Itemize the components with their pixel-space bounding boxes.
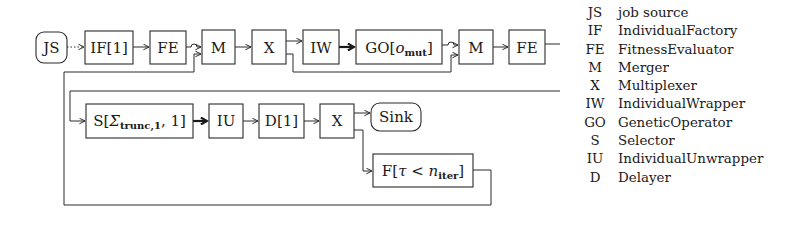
legend-abbr: S: [578, 132, 612, 150]
legend-desc: Multiplexer: [618, 77, 697, 95]
node-label: JS: [41, 39, 59, 57]
node-filter: F[τ < niter]: [373, 154, 473, 187]
legend-abbr: JS: [578, 4, 612, 22]
legend-desc: GeneticOperator: [618, 114, 732, 132]
node-label: IU: [217, 112, 236, 130]
legend-item: IWIndividualWrapper: [578, 95, 763, 113]
legend-desc: FitnessEvaluator: [618, 41, 733, 59]
node-label: FE: [516, 39, 537, 57]
legend-abbr: IU: [578, 150, 612, 168]
legend-desc: IndividualFactory: [618, 22, 737, 40]
legend-desc: IndividualUnwrapper: [618, 150, 763, 168]
legend: JSjob source IFIndividualFactory FEFitne…: [578, 4, 763, 187]
node-multiplexer-2: X: [320, 104, 354, 138]
node-genetic-operator: GO[omut]: [356, 30, 442, 64]
edge-fe-m: [186, 44, 201, 47]
legend-abbr: D: [578, 169, 612, 187]
edge-x2-f: [354, 130, 372, 171]
node-label: X: [332, 112, 343, 130]
node-selector: S[Σtrunc,1, 1]: [86, 104, 193, 138]
legend-desc: Delayer: [618, 169, 671, 187]
legend-abbr: M: [578, 59, 612, 77]
node-multiplexer-1: X: [252, 30, 286, 64]
edge-go-m2: [442, 42, 458, 45]
legend-abbr: FE: [578, 41, 612, 59]
node-label: M: [211, 39, 226, 57]
pipeline-diagram: JS IF[1] FE M X IW GO[omut] M FE S[Σtrun…: [0, 0, 560, 236]
legend-abbr: IF: [578, 22, 612, 40]
node-label: FE: [157, 39, 178, 57]
legend-item: DDelayer: [578, 169, 763, 187]
node-individual-unwrapper: IU: [209, 104, 243, 138]
legend-abbr: X: [578, 77, 612, 95]
node-merger-1: M: [202, 30, 235, 64]
legend-desc: job source: [618, 4, 688, 22]
node-label: X: [264, 39, 275, 57]
node-individual-factory: IF[1]: [85, 31, 133, 64]
node-label: D[1]: [265, 112, 298, 130]
legend-desc: Merger: [618, 59, 669, 77]
legend-desc: Selector: [618, 132, 675, 150]
node-merger-2: M: [459, 30, 493, 64]
legend-item: SSelector: [578, 132, 763, 150]
node-individual-wrapper: IW: [303, 30, 339, 64]
node-label: IW: [310, 39, 332, 57]
legend-desc: IndividualWrapper: [618, 95, 745, 113]
node-label: IF[1]: [90, 39, 128, 57]
node-fitness-evaluator-1: FE: [150, 31, 186, 64]
node-label: M: [468, 39, 483, 57]
legend-item: IFIndividualFactory: [578, 22, 763, 40]
legend-item: IUIndividualUnwrapper: [578, 150, 763, 168]
node-job-source: JS: [36, 32, 67, 63]
legend-item: MMerger: [578, 59, 763, 77]
node-delayer: D[1]: [259, 104, 304, 138]
legend-item: GOGeneticOperator: [578, 114, 763, 132]
legend-item: FEFitnessEvaluator: [578, 41, 763, 59]
legend-abbr: GO: [578, 114, 612, 132]
legend-abbr: IW: [578, 95, 612, 113]
node-sink: Sink: [371, 103, 421, 131]
node-fitness-evaluator-2: FE: [509, 30, 545, 64]
node-label: Sink: [379, 108, 414, 126]
legend-item: JSjob source: [578, 4, 763, 22]
legend-item: XMultiplexer: [578, 77, 763, 95]
